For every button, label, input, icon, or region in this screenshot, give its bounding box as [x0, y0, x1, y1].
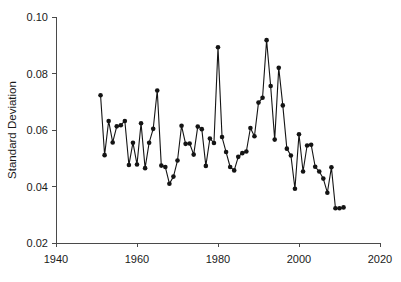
y-tick-label-2: 0.06: [27, 124, 48, 136]
data-point: [114, 124, 119, 129]
data-point: [325, 190, 330, 195]
data-point: [321, 176, 326, 181]
y-tick-label-4: 0.10: [27, 11, 48, 23]
x-tick-label-2: 1980: [206, 253, 230, 265]
data-point: [289, 153, 294, 158]
chart-series: [98, 38, 346, 211]
data-point: [106, 119, 111, 124]
x-tick-label-4: 2020: [368, 253, 392, 265]
data-point: [175, 158, 180, 163]
x-tick-label-1: 1960: [125, 253, 149, 265]
data-point: [297, 132, 302, 137]
x-tick-label-3: 2000: [287, 253, 311, 265]
data-point: [191, 152, 196, 157]
data-point: [341, 205, 346, 210]
data-point: [236, 155, 241, 160]
data-point: [208, 136, 213, 141]
data-point: [333, 206, 338, 211]
data-point: [293, 186, 298, 191]
data-point: [281, 103, 286, 108]
data-point: [195, 124, 200, 129]
data-point: [127, 163, 132, 168]
data-point: [256, 100, 261, 105]
chart-figure: 0.020.040.060.080.1019401960198020002020…: [0, 0, 401, 282]
data-point: [244, 149, 249, 154]
data-point: [317, 169, 322, 174]
data-point: [183, 142, 188, 147]
series-line-0: [101, 40, 344, 208]
standard-deviation-line-chart: 0.020.040.060.080.1019401960198020002020…: [0, 0, 401, 282]
data-point: [240, 151, 245, 156]
data-point: [204, 164, 209, 169]
y-tick-label-3: 0.08: [27, 68, 48, 80]
data-point: [167, 181, 172, 186]
data-point: [110, 140, 115, 145]
data-point: [285, 146, 290, 151]
data-point: [309, 142, 314, 147]
x-tick-label-0: 1940: [44, 253, 68, 265]
data-point: [187, 141, 192, 146]
data-point: [260, 96, 265, 101]
data-point: [268, 84, 273, 89]
data-point: [98, 93, 103, 98]
data-point: [123, 119, 128, 124]
data-point: [119, 123, 124, 128]
data-point: [200, 127, 205, 132]
data-point: [313, 164, 318, 169]
data-point: [147, 140, 152, 145]
data-point: [220, 135, 225, 140]
y-axis-title: Standard Deviation: [6, 81, 18, 179]
data-point: [139, 121, 144, 126]
data-point: [252, 134, 257, 139]
data-point: [337, 206, 342, 211]
data-point: [102, 153, 107, 158]
data-point: [264, 38, 269, 43]
data-point: [224, 150, 229, 155]
data-point: [228, 165, 233, 170]
data-point: [131, 140, 136, 145]
data-point: [135, 162, 140, 167]
data-point: [276, 66, 281, 71]
y-tick-label-0: 0.02: [27, 237, 48, 249]
data-point: [305, 143, 310, 148]
data-point: [151, 127, 156, 132]
data-point: [171, 174, 176, 179]
data-point: [232, 168, 237, 173]
data-point: [212, 141, 217, 146]
data-point: [248, 126, 253, 131]
chart-labels: Standard Deviation: [6, 81, 18, 179]
data-point: [179, 123, 184, 128]
y-tick-label-1: 0.04: [27, 181, 48, 193]
data-point: [159, 163, 164, 168]
data-point: [301, 169, 306, 174]
data-point: [329, 165, 334, 170]
data-point: [272, 137, 277, 142]
data-point: [163, 165, 168, 170]
data-point: [216, 45, 221, 50]
data-point: [143, 166, 148, 171]
data-point: [155, 88, 160, 93]
